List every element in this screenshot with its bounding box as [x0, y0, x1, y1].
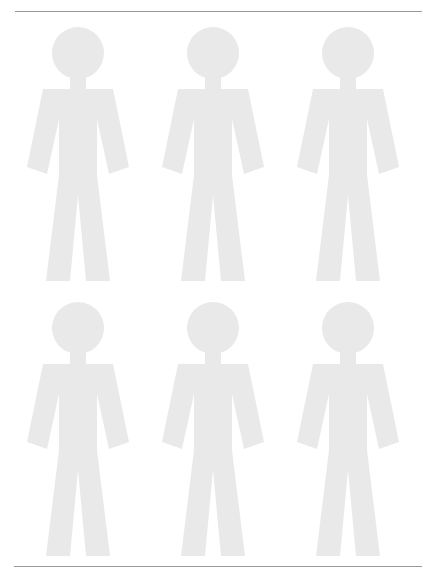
person-legs [46, 450, 110, 556]
page-canvas [0, 0, 437, 579]
person-legs [181, 175, 245, 281]
person-legs [46, 175, 110, 281]
person-neck [70, 73, 86, 91]
person-torso-and-arms [27, 364, 129, 452]
person-pictogram-2 [154, 27, 272, 283]
person-pictogram-4 [19, 302, 137, 558]
person-legs [316, 450, 380, 556]
person-neck [205, 73, 221, 91]
person-head-icon [322, 27, 374, 79]
person-legs [181, 450, 245, 556]
person-pictogram-5 [154, 302, 272, 558]
person-torso-and-arms [297, 364, 399, 452]
person-head-icon [52, 302, 104, 354]
person-pictogram-6 [289, 302, 407, 558]
person-head-icon [187, 27, 239, 79]
person-torso-and-arms [162, 89, 264, 177]
person-neck [70, 348, 86, 366]
bottom-divider-rule [14, 566, 422, 567]
person-pictogram-1 [19, 27, 137, 283]
person-neck [340, 348, 356, 366]
person-torso-and-arms [162, 364, 264, 452]
person-torso-and-arms [27, 89, 129, 177]
person-legs [316, 175, 380, 281]
person-neck [340, 73, 356, 91]
person-head-icon [187, 302, 239, 354]
person-pictogram-3 [289, 27, 407, 283]
person-torso-and-arms [297, 89, 399, 177]
person-head-icon [322, 302, 374, 354]
person-neck [205, 348, 221, 366]
person-head-icon [52, 27, 104, 79]
figure-grid [0, 0, 437, 579]
